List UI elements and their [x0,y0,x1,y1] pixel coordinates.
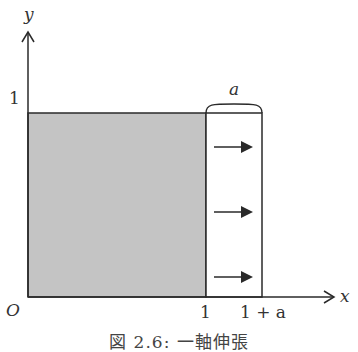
original-square [28,113,206,297]
x-tick-1-plus-a: 1 + a [240,302,286,322]
extension-label: a [229,79,239,99]
y-axis-label: y [23,4,34,24]
x-axis-label: x [340,286,350,306]
origin-label: O [6,300,20,320]
extension-brace [206,104,262,113]
x-tick-1: 1 [200,302,211,322]
y-tick-1: 1 [9,88,20,108]
figure-caption: 図 2.6: 一軸伸張 [0,328,358,352]
extension-region [206,113,262,297]
uniaxial-extension-diagram: y x O 1 1 1 + a a [0,0,358,352]
